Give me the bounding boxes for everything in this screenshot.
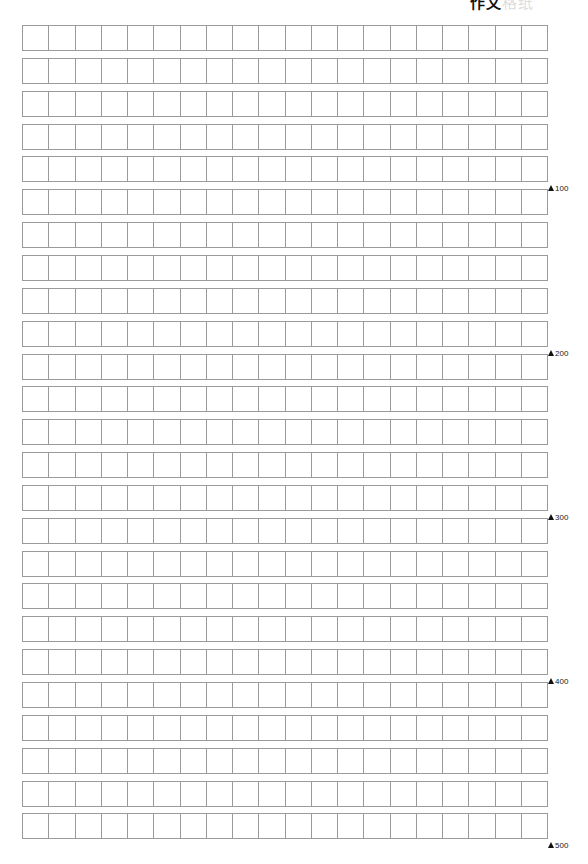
grid-cell[interactable] [338,617,364,641]
grid-cell[interactable] [181,453,207,477]
grid-cell[interactable] [469,683,495,707]
grid-cell[interactable] [286,584,312,608]
grid-cell[interactable] [49,453,75,477]
grid-cell[interactable] [469,256,495,280]
grid-cell[interactable] [338,552,364,576]
grid-cell[interactable] [364,782,390,806]
grid-cell[interactable] [181,92,207,116]
grid-cell[interactable] [469,59,495,83]
grid-cell[interactable] [312,453,338,477]
grid-cell[interactable] [312,519,338,543]
grid-cell[interactable] [286,322,312,346]
grid-cell[interactable] [391,92,417,116]
grid-cell[interactable] [128,289,154,313]
grid-cell[interactable] [417,59,443,83]
grid-cell[interactable] [233,749,259,773]
grid-cell[interactable] [391,157,417,181]
grid-cell[interactable] [522,519,547,543]
grid-cell[interactable] [443,322,469,346]
grid-cell[interactable] [76,92,102,116]
grid-cell[interactable] [469,486,495,510]
grid-cell[interactable] [76,190,102,214]
grid-cell[interactable] [496,26,522,50]
grid-cell[interactable] [391,256,417,280]
grid-cell[interactable] [259,519,285,543]
grid-cell[interactable] [286,190,312,214]
grid-cell[interactable] [259,256,285,280]
grid-cell[interactable] [364,814,390,838]
grid-cell[interactable] [207,157,233,181]
grid-cell[interactable] [443,453,469,477]
grid-cell[interactable] [522,125,547,149]
grid-cell[interactable] [522,289,547,313]
grid-cell[interactable] [259,289,285,313]
grid-cell[interactable] [128,26,154,50]
grid-cell[interactable] [207,26,233,50]
grid-cell[interactable] [338,519,364,543]
grid-cell[interactable] [522,782,547,806]
grid-cell[interactable] [49,387,75,411]
grid-cell[interactable] [102,223,128,247]
grid-cell[interactable] [443,420,469,444]
grid-cell[interactable] [522,716,547,740]
grid-cell[interactable] [286,387,312,411]
grid-cell[interactable] [154,486,180,510]
grid-cell[interactable] [312,26,338,50]
grid-cell[interactable] [181,782,207,806]
grid-cell[interactable] [102,814,128,838]
grid-cell[interactable] [338,814,364,838]
grid-cell[interactable] [76,453,102,477]
grid-cell[interactable] [49,749,75,773]
grid-cell[interactable] [76,814,102,838]
grid-cell[interactable] [23,716,49,740]
grid-cell[interactable] [23,486,49,510]
grid-cell[interactable] [391,814,417,838]
grid-cell[interactable] [128,59,154,83]
grid-cell[interactable] [181,387,207,411]
grid-cell[interactable] [312,814,338,838]
grid-cell[interactable] [76,289,102,313]
grid-cell[interactable] [23,322,49,346]
grid-cell[interactable] [233,486,259,510]
grid-cell[interactable] [338,650,364,674]
grid-cell[interactable] [154,683,180,707]
grid-cell[interactable] [496,814,522,838]
grid-cell[interactable] [443,157,469,181]
grid-cell[interactable] [338,190,364,214]
grid-cell[interactable] [207,486,233,510]
grid-cell[interactable] [102,387,128,411]
grid-cell[interactable] [364,92,390,116]
grid-cell[interactable] [391,782,417,806]
grid-cell[interactable] [49,190,75,214]
grid-cell[interactable] [154,584,180,608]
grid-cell[interactable] [522,387,547,411]
grid-cell[interactable] [181,814,207,838]
grid-cell[interactable] [391,125,417,149]
grid-cell[interactable] [181,552,207,576]
grid-cell[interactable] [496,552,522,576]
grid-cell[interactable] [469,519,495,543]
grid-cell[interactable] [522,26,547,50]
grid-cell[interactable] [286,552,312,576]
grid-cell[interactable] [102,716,128,740]
grid-cell[interactable] [469,387,495,411]
grid-cell[interactable] [207,355,233,379]
grid-cell[interactable] [338,486,364,510]
grid-cell[interactable] [76,420,102,444]
grid-cell[interactable] [207,814,233,838]
grid-cell[interactable] [443,256,469,280]
grid-cell[interactable] [259,223,285,247]
grid-cell[interactable] [233,223,259,247]
grid-cell[interactable] [233,650,259,674]
grid-cell[interactable] [233,190,259,214]
grid-cell[interactable] [49,125,75,149]
grid-cell[interactable] [496,453,522,477]
grid-cell[interactable] [128,782,154,806]
grid-cell[interactable] [312,683,338,707]
grid-cell[interactable] [128,716,154,740]
grid-cell[interactable] [443,749,469,773]
grid-cell[interactable] [364,584,390,608]
grid-cell[interactable] [102,453,128,477]
grid-cell[interactable] [417,289,443,313]
grid-cell[interactable] [128,683,154,707]
